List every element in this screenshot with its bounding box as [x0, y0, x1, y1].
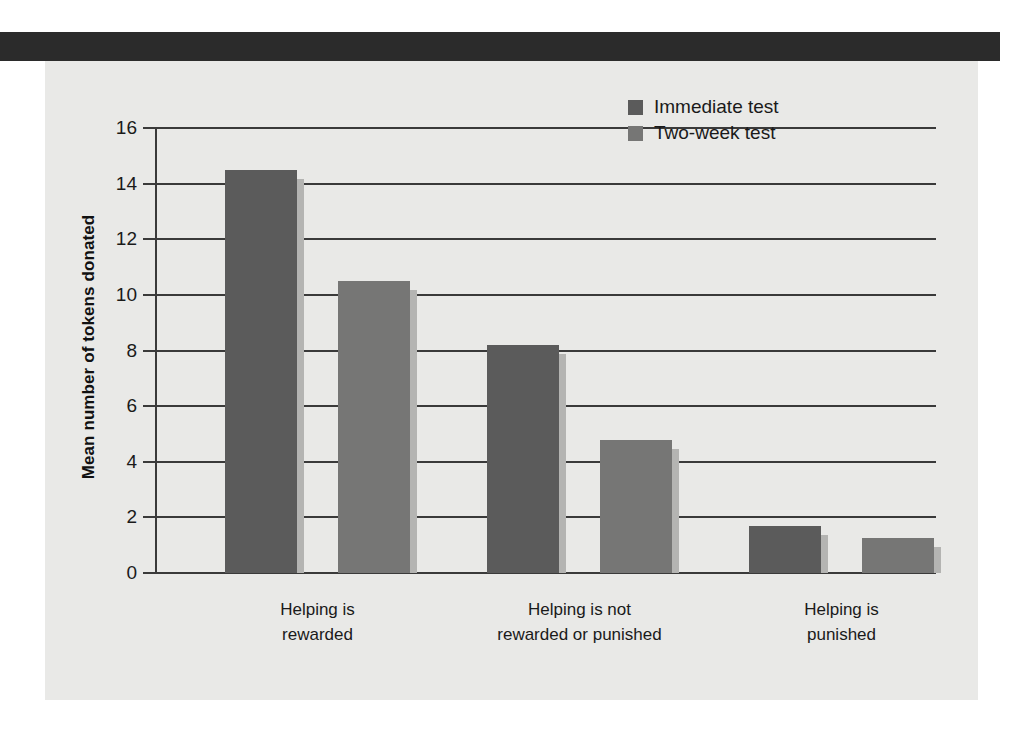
y-axis-tick: [143, 238, 155, 240]
y-axis-tick-label: 14: [116, 173, 137, 195]
y-axis-tick: [143, 294, 155, 296]
chart-legend: Immediate testTwo-week test: [628, 94, 779, 146]
bar-body: [600, 440, 672, 574]
legend-item-2: Two-week test: [628, 120, 779, 146]
chart-panel: Mean number of tokens donated 0246810121…: [45, 61, 978, 700]
y-axis-tick: [143, 183, 155, 185]
y-axis-tick-label: 10: [116, 284, 137, 306]
figure-root: Mean number of tokens donated 0246810121…: [0, 0, 1028, 738]
x-axis-category-label-1: Helping is rewarded: [165, 597, 470, 647]
bar-shadow: [934, 547, 941, 573]
y-axis-tick: [143, 127, 155, 129]
y-axis-tick-label: 6: [126, 395, 137, 417]
legend-swatch-icon: [628, 100, 643, 115]
bar-shadow: [672, 449, 679, 574]
legend-label: Immediate test: [654, 96, 779, 118]
legend-label: Two-week test: [654, 122, 775, 144]
gridline: [155, 127, 936, 129]
y-axis-tick-label: 2: [126, 506, 137, 528]
legend-item-1: Immediate test: [628, 94, 779, 120]
bar-body: [225, 170, 297, 573]
bar-two-week-group-3: [862, 538, 934, 573]
y-axis-tick: [143, 572, 155, 574]
bar-shadow: [559, 354, 566, 573]
x-axis-category-label-2: Helping is not rewarded or punished: [427, 597, 732, 647]
legend-swatch-icon: [628, 126, 643, 141]
y-axis-tick: [143, 350, 155, 352]
y-axis-tick-label: 12: [116, 228, 137, 250]
x-axis-category-label-3: Helping is punished: [689, 597, 994, 647]
bar-two-week-group-2: [600, 440, 672, 574]
y-axis-tick: [143, 516, 155, 518]
bar-body: [487, 345, 559, 573]
y-axis-tick-label: 0: [126, 562, 137, 584]
bar-immediate-group-2: [487, 345, 559, 573]
bar-body: [862, 538, 934, 573]
y-axis-tick-label: 8: [126, 340, 137, 362]
y-axis-title: Mean number of tokens donated: [79, 177, 99, 517]
bar-immediate-group-1: [225, 170, 297, 573]
header-rule: [0, 32, 1000, 61]
y-axis-tick: [143, 405, 155, 407]
bar-shadow: [297, 179, 304, 573]
y-axis-tick-label: 16: [116, 117, 137, 139]
bar-immediate-group-3: [749, 526, 821, 573]
plot-area: 0246810121416Helping is rewardedHelping …: [155, 128, 936, 573]
bar-body: [338, 281, 410, 573]
y-axis-tick: [143, 461, 155, 463]
bar-two-week-group-1: [338, 281, 410, 573]
bar-body: [749, 526, 821, 573]
y-axis-tick-label: 4: [126, 451, 137, 473]
bar-shadow: [410, 290, 417, 573]
bar-shadow: [821, 535, 828, 573]
